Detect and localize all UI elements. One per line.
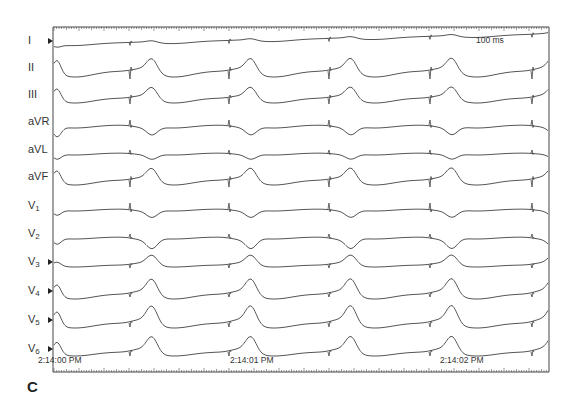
ecg-trace-iii — [54, 87, 548, 103]
scale-label: 100 ms — [476, 35, 504, 45]
ecg-trace-avr — [54, 125, 548, 137]
ecg-trace-v1 — [54, 209, 548, 217]
ecg-trace-v6 — [54, 336, 548, 356]
plot-frame — [53, 27, 549, 372]
lead-marker-icon — [48, 317, 53, 323]
bottom-time-ruler — [54, 368, 547, 372]
ecg-trace-avf — [54, 168, 548, 185]
lead-label-ii: II — [28, 62, 34, 73]
lead-label-avr: aVR — [28, 116, 49, 127]
ecg-trace-v3 — [54, 255, 548, 267]
lead-label-v3: V3 — [28, 256, 40, 269]
time-label-end: 2:14:02 PM — [440, 355, 483, 365]
lead-label-i: I — [28, 35, 31, 46]
panel-letter: C — [27, 378, 38, 395]
time-label-mid: 2:14:01 PM — [230, 355, 273, 365]
ecg-traces — [54, 33, 548, 356]
top-time-ruler — [54, 27, 547, 31]
ecg-trace-v4 — [54, 279, 548, 299]
lead-marker-icon — [48, 38, 53, 44]
lead-label-v1: V1 — [28, 200, 40, 213]
ecg-trace-v5 — [54, 306, 548, 328]
lead-marker-icon — [48, 346, 53, 352]
ecg-trace-avl — [54, 153, 548, 159]
ecg-trace-v2 — [54, 237, 548, 248]
ecg-plot — [0, 0, 576, 401]
lead-label-avl: aVL — [28, 144, 48, 155]
lead-label-v5: V5 — [28, 314, 40, 327]
lead-marker-icon — [48, 259, 53, 265]
lead-label-v4: V4 — [28, 285, 40, 298]
lead-label-iii: III — [28, 89, 37, 100]
lead-label-v2: V2 — [28, 228, 40, 241]
time-label-start: 2:14:00 PM — [38, 355, 81, 365]
ecg-trace-ii — [54, 58, 548, 77]
ecg-trace-i — [54, 33, 548, 48]
lead-marker-icon — [48, 288, 53, 294]
lead-label-avf: aVF — [28, 171, 48, 182]
